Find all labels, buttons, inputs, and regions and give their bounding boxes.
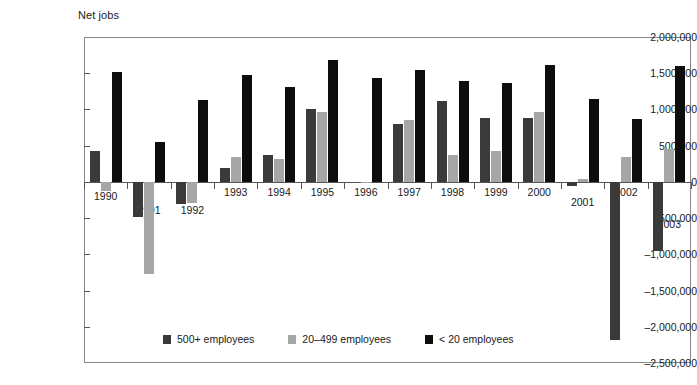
chart-legend: 500+ employees20–499 employees< 20 emplo… xyxy=(163,333,548,345)
x-axis-tick-mark xyxy=(301,182,302,189)
bar-2003-series-1 xyxy=(653,182,663,251)
bar-1999-series-2 xyxy=(491,151,501,181)
x-axis-tick-mark xyxy=(431,182,432,189)
bar-2000-series-1 xyxy=(523,118,533,182)
y-axis-tick-mark xyxy=(84,291,90,292)
legend-item: 20–499 employees xyxy=(288,333,391,345)
bar-1996-series-2 xyxy=(361,182,371,183)
bar-1998-series-1 xyxy=(437,101,447,181)
bar-1991-series-3 xyxy=(155,142,165,182)
x-axis-tick-mark xyxy=(648,182,649,189)
bar-2002-series-3 xyxy=(632,119,642,182)
bar-1997-series-3 xyxy=(415,70,425,182)
x-axis-tick-label: 1995 xyxy=(311,186,334,198)
y-axis-tick-mark xyxy=(84,218,90,219)
y-axis-tick-label: 1,500,000 xyxy=(625,67,697,79)
y-axis-tick-mark xyxy=(84,73,90,74)
x-axis-tick-label: 1993 xyxy=(224,186,247,198)
bar-1990-series-2 xyxy=(101,182,111,191)
y-axis-tick-label: 2,000,000 xyxy=(625,31,697,43)
x-axis-tick-mark xyxy=(214,182,215,189)
x-axis-tick-mark xyxy=(127,182,128,189)
bar-2000-series-2 xyxy=(534,112,544,182)
bar-1991-series-2 xyxy=(144,182,154,274)
bar-2001-series-2 xyxy=(578,179,588,182)
y-axis-tick-label: –2,000,000 xyxy=(625,321,697,333)
bar-1995-series-2 xyxy=(317,112,327,182)
x-axis-tick-label: 1998 xyxy=(441,186,464,198)
bar-1990-series-1 xyxy=(90,151,100,182)
legend-label: < 20 employees xyxy=(439,333,513,345)
bar-1990-series-3 xyxy=(112,72,122,182)
chart-figure: Net jobs 2,000,0001,500,0001,000,000500,… xyxy=(0,0,697,385)
y-axis xyxy=(0,0,80,385)
legend-label: 500+ employees xyxy=(177,333,254,345)
x-axis-tick-mark xyxy=(388,182,389,189)
bar-1992-series-1 xyxy=(176,182,186,204)
legend-swatch-icon xyxy=(425,335,433,344)
y-axis-tick-label: –2,500,000 xyxy=(625,357,697,369)
legend-item: 500+ employees xyxy=(163,333,254,345)
bar-1991-series-1 xyxy=(133,182,143,217)
bar-1993-series-1 xyxy=(220,168,230,181)
legend-swatch-icon xyxy=(288,335,296,344)
y-axis-tick-label: –1,500,000 xyxy=(625,285,697,297)
bar-1992-series-2 xyxy=(187,182,197,203)
x-axis-tick-mark xyxy=(474,182,475,189)
legend-label: 20–499 employees xyxy=(302,333,391,345)
bar-1997-series-1 xyxy=(393,124,403,182)
x-axis-tick-label: 1996 xyxy=(354,186,377,198)
y-axis-tick-mark xyxy=(84,254,90,255)
x-axis-tick-label: 1992 xyxy=(181,204,204,216)
x-axis-tick-label: 1990 xyxy=(94,190,117,202)
bar-2003-series-2 xyxy=(664,149,674,182)
bar-1997-series-2 xyxy=(404,120,414,182)
bar-1994-series-1 xyxy=(263,155,273,182)
x-axis-tick-mark xyxy=(518,182,519,189)
bar-2000-series-3 xyxy=(545,65,555,182)
plot-area xyxy=(84,37,691,363)
bar-1994-series-3 xyxy=(285,87,295,182)
y-axis-tick-mark xyxy=(84,109,90,110)
x-axis-tick-mark xyxy=(604,182,605,189)
x-axis-tick-label: 1999 xyxy=(484,186,507,198)
bar-1999-series-3 xyxy=(502,83,512,182)
bar-1995-series-3 xyxy=(328,60,338,182)
bar-2002-series-2 xyxy=(621,157,631,182)
y-axis-tick-mark xyxy=(84,327,90,328)
bar-1998-series-3 xyxy=(459,81,469,182)
bar-1995-series-1 xyxy=(306,109,316,182)
x-axis-tick-mark xyxy=(561,182,562,189)
y-axis-tick-label: 1,000,000 xyxy=(625,103,697,115)
x-axis-tick-label: 1997 xyxy=(397,186,420,198)
bar-2001-series-1 xyxy=(567,182,577,186)
bar-1993-series-3 xyxy=(242,75,252,182)
bar-2001-series-3 xyxy=(589,99,599,182)
bar-2002-series-1 xyxy=(610,182,620,340)
y-axis-title: Net jobs xyxy=(78,9,119,21)
x-axis-tick-label: 2001 xyxy=(571,196,594,208)
x-axis-tick-mark xyxy=(691,182,692,189)
bar-1996-series-3 xyxy=(372,78,382,182)
bar-1998-series-2 xyxy=(448,155,458,182)
legend-swatch-icon xyxy=(163,335,171,344)
y-axis-tick-mark xyxy=(84,146,90,147)
x-axis-tick-label: 2000 xyxy=(528,186,551,198)
x-axis-tick-mark xyxy=(344,182,345,189)
x-axis-tick-mark xyxy=(171,182,172,189)
legend-item: < 20 employees xyxy=(425,333,513,345)
bar-1999-series-1 xyxy=(480,118,490,182)
x-axis-tick-label: 1994 xyxy=(267,186,290,198)
bar-1994-series-2 xyxy=(274,159,284,182)
x-axis-tick-mark xyxy=(257,182,258,189)
bar-1993-series-2 xyxy=(231,157,241,182)
x-axis-tick-mark xyxy=(84,182,85,189)
bar-1992-series-3 xyxy=(198,100,208,182)
bar-2003-series-3 xyxy=(675,66,685,182)
